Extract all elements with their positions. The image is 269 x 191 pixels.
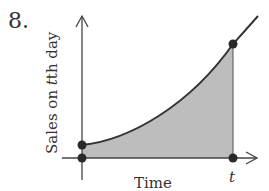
- point-curve-start: [78, 141, 87, 150]
- x-axis-label: Time: [134, 174, 172, 191]
- chart-svg: 8. Sales on tth day Time t: [0, 0, 269, 191]
- y-label-part3: th day: [43, 31, 61, 79]
- point-t-axis: [229, 154, 238, 163]
- y-label-part1: Sales on: [43, 85, 61, 154]
- problem-number: 8.: [8, 8, 29, 33]
- point-curve-at-t: [229, 40, 238, 49]
- x-tick-label-t: t: [229, 168, 236, 186]
- chart-figure: 8. Sales on tth day Time t: [0, 0, 269, 191]
- point-origin: [78, 154, 87, 163]
- y-axis-label: Sales on tth day: [43, 31, 61, 154]
